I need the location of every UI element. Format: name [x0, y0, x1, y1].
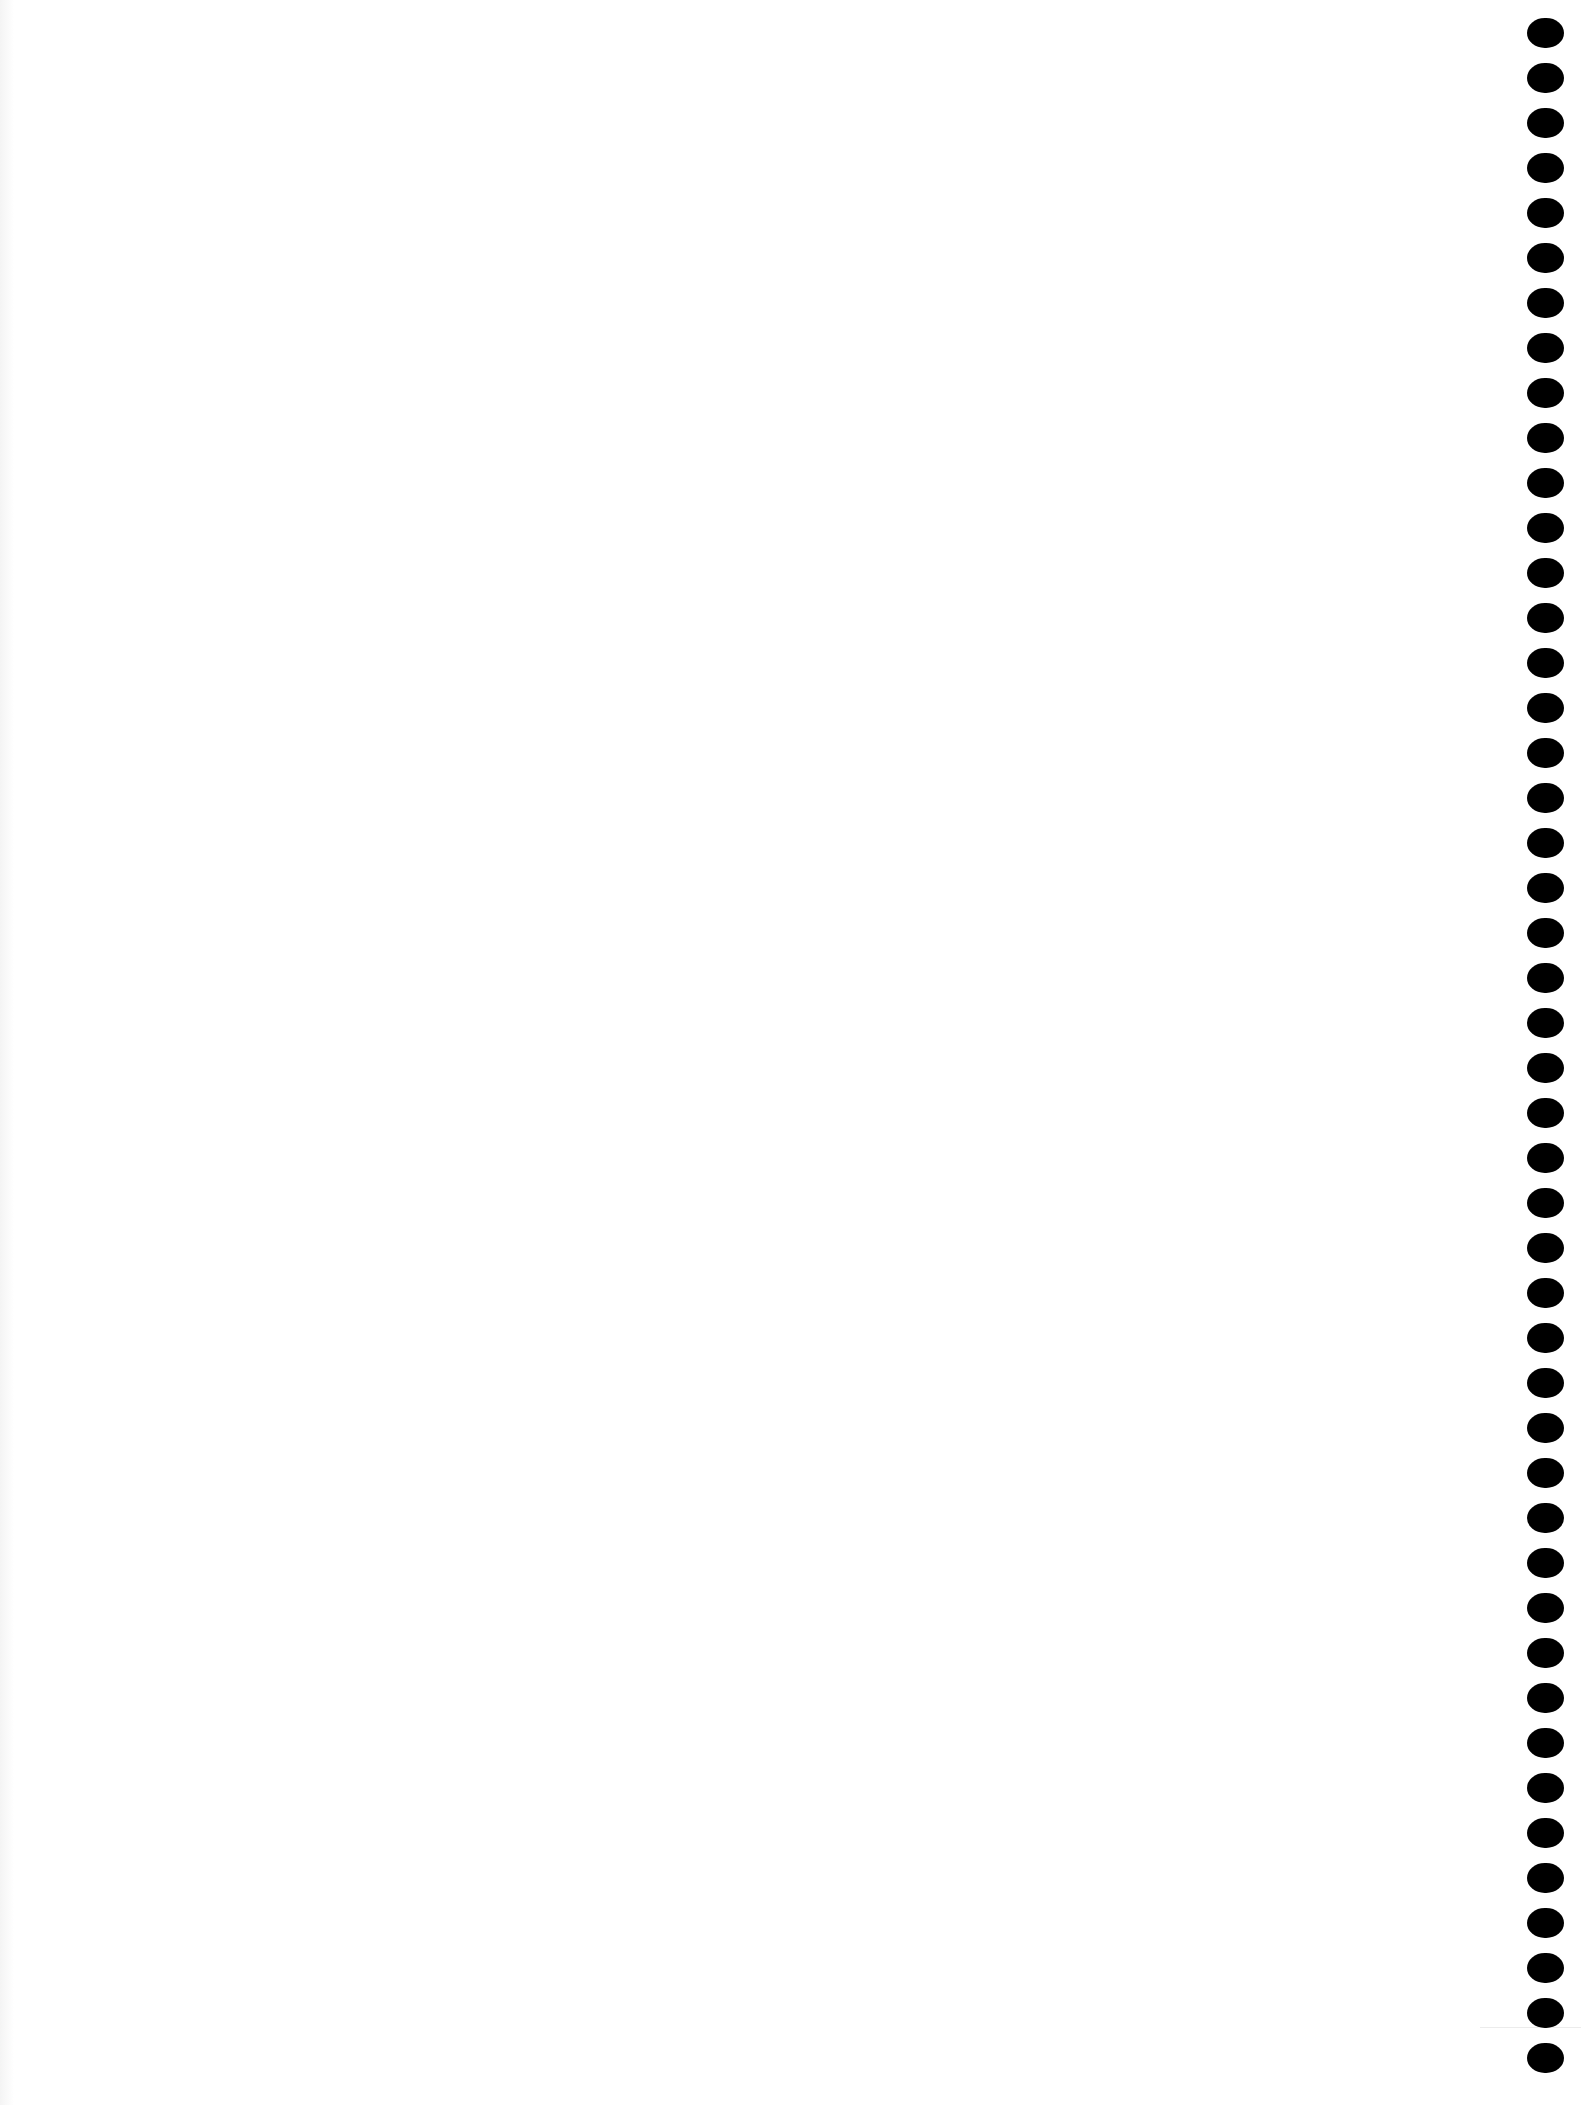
binding-hole [1527, 1143, 1564, 1173]
binding-hole [1527, 918, 1564, 948]
page-left-edge-shadow [0, 0, 14, 2105]
binding-hole [1527, 288, 1564, 318]
binding-hole [1527, 1233, 1564, 1263]
binding-hole [1527, 693, 1564, 723]
binding-hole [1527, 1413, 1564, 1443]
binding-hole [1527, 603, 1564, 633]
binding-hole [1527, 1593, 1564, 1623]
binding-hole [1527, 1278, 1564, 1308]
binding-hole [1527, 1548, 1564, 1578]
binding-hole [1527, 1368, 1564, 1398]
binding-hole [1527, 468, 1564, 498]
binding-hole [1527, 2043, 1564, 2073]
binding-hole [1527, 1323, 1564, 1353]
binding-hole [1527, 1053, 1564, 1083]
binding-hole [1527, 423, 1564, 453]
binding-hole [1527, 63, 1564, 93]
binding-hole [1527, 378, 1564, 408]
binding-hole [1527, 1683, 1564, 1713]
blank-page [0, 0, 1581, 2105]
binding-hole [1527, 1008, 1564, 1038]
binding-hole [1527, 963, 1564, 993]
binding-hole [1527, 243, 1564, 273]
punch-hole-binding-strip [1527, 0, 1567, 2105]
binding-hole [1527, 558, 1564, 588]
binding-hole [1527, 1908, 1564, 1938]
binding-hole [1527, 873, 1564, 903]
binding-hole [1527, 1098, 1564, 1128]
binding-hole [1527, 1953, 1564, 1983]
binding-hole [1527, 108, 1564, 138]
binding-hole [1527, 648, 1564, 678]
binding-hole [1527, 333, 1564, 363]
binding-hole [1527, 513, 1564, 543]
binding-hole [1527, 1458, 1564, 1488]
binding-hole [1527, 1998, 1564, 2028]
binding-hole [1527, 1728, 1564, 1758]
binding-hole [1527, 1188, 1564, 1218]
binding-hole [1527, 1863, 1564, 1893]
binding-hole [1527, 1503, 1564, 1533]
binding-hole [1527, 1818, 1564, 1848]
binding-hole [1527, 198, 1564, 228]
binding-hole [1527, 1638, 1564, 1668]
binding-hole [1527, 738, 1564, 768]
binding-hole [1527, 18, 1564, 48]
binding-hole [1527, 783, 1564, 813]
binding-hole [1527, 828, 1564, 858]
binding-hole [1527, 1773, 1564, 1803]
binding-hole [1527, 153, 1564, 183]
